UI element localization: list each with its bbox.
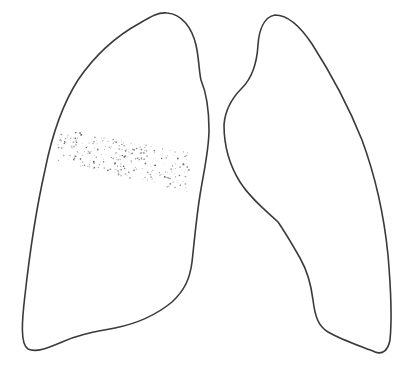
lung-diagram-canvas	[0, 0, 411, 365]
stippled-opacity-region	[57, 132, 189, 192]
right-lung-outline	[22, 13, 209, 351]
lung-diagram: Lung outline diagram with stippled opaci…	[0, 0, 411, 365]
left-lung-outline	[224, 15, 391, 353]
